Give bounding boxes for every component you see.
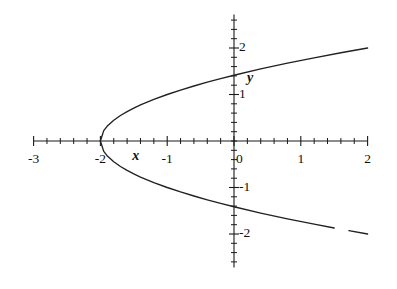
x-tick-label: 1 xyxy=(297,151,304,166)
plot-canvas: -3-2-1012-2-112 xy xyxy=(0,0,397,289)
y-tick-label: -2 xyxy=(239,225,250,240)
x-tick-label: 0 xyxy=(236,151,243,166)
y-tick-label: -1 xyxy=(239,179,250,194)
x-tick-label: -1 xyxy=(162,151,173,166)
y-tick-label: 1 xyxy=(239,86,246,101)
axis-name-y: y xyxy=(245,70,254,85)
x-tick-label: -2 xyxy=(95,151,106,166)
y-tick-label: 2 xyxy=(239,39,246,54)
parabola-plot: -3-2-1012-2-112 xy xyxy=(0,0,397,289)
x-tick-label: -3 xyxy=(28,151,39,166)
x-tick-label: 2 xyxy=(364,151,371,166)
axis-name-x: x xyxy=(131,148,139,163)
plot-background xyxy=(0,0,397,289)
